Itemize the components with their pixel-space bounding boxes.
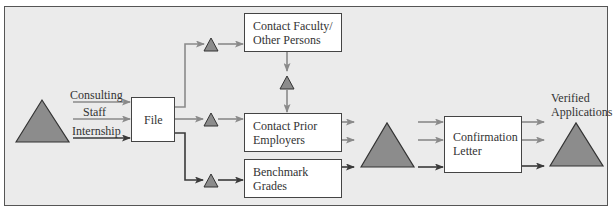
benchmark-box: Benchmark Grades bbox=[244, 159, 342, 198]
benchmark-line1: Benchmark bbox=[253, 165, 308, 179]
confirmation-letter-box: Confirmation Letter bbox=[444, 116, 522, 173]
input-label-internship: Internship bbox=[72, 124, 121, 138]
file-box: File bbox=[131, 97, 175, 142]
process-flow-diagram: Consulting Staff Internship File Contact… bbox=[0, 0, 614, 212]
faculty-inventory-triangle-icon bbox=[204, 38, 218, 51]
benchmark-line2: Grades bbox=[253, 179, 287, 193]
middle-inventory-triangle-icon bbox=[361, 123, 414, 167]
confirmation-line2: Letter bbox=[453, 144, 482, 158]
confirmation-line1: Confirmation bbox=[453, 130, 518, 144]
file-label: File bbox=[144, 113, 163, 127]
prior-inventory-triangle-icon bbox=[204, 113, 218, 126]
output-label-line2: Applications bbox=[551, 105, 612, 119]
input-label-consulting: Consulting bbox=[70, 88, 123, 102]
benchmark-inventory-triangle-icon bbox=[204, 174, 218, 187]
contact-faculty-line2: Other Persons bbox=[253, 33, 321, 47]
contact-prior-box: Contact Prior Employers bbox=[244, 113, 342, 152]
start-inventory-triangle-icon bbox=[16, 100, 69, 142]
contact-prior-line2: Employers bbox=[253, 133, 305, 147]
contact-faculty-line1: Contact Faculty/ bbox=[253, 19, 333, 33]
faculty-prior-inventory-triangle-icon bbox=[280, 76, 294, 89]
file-to-benchmark-connector bbox=[174, 133, 203, 180]
contact-faculty-box: Contact Faculty/ Other Persons bbox=[244, 13, 342, 52]
output-label-line1: Verified bbox=[551, 91, 590, 105]
contact-prior-line1: Contact Prior bbox=[253, 119, 317, 133]
input-label-staff: Staff bbox=[83, 105, 106, 119]
verified-applications-triangle-icon bbox=[550, 123, 603, 166]
file-to-faculty-connector bbox=[174, 44, 204, 107]
